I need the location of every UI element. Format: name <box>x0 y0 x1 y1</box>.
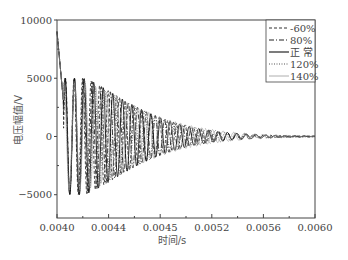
x-tick-label: 0.0060 <box>298 222 333 233</box>
legend-label: -60% <box>290 23 316 34</box>
x-tick-label: 0.0044 <box>91 222 126 233</box>
x-tick-label: 0.0056 <box>246 222 281 233</box>
legend: -60%80%正 常120%140% <box>266 20 319 82</box>
x-tick-label: 0.0040 <box>40 222 75 233</box>
chart-svg: 1000050000−5000 0.00400.00440.00450.0052… <box>0 0 348 260</box>
legend-label: 正 常 <box>290 46 313 58</box>
y-axis-label: 电压幅值/V <box>12 95 24 145</box>
y-tick-label: 5000 <box>27 73 52 84</box>
x-tick-label: 0.0045 <box>143 222 178 233</box>
legend-label: 120% <box>290 59 319 70</box>
y-tick-label: 10000 <box>20 15 52 26</box>
legend-label: 80% <box>290 35 312 46</box>
x-axis: 0.00400.00440.00450.00520.00560.0060 <box>40 214 333 233</box>
legend-label: 140% <box>290 71 319 82</box>
y-axis: 1000050000−5000 <box>18 15 59 201</box>
x-tick-label: 0.0052 <box>194 222 229 233</box>
x-axis-label: 时间/s <box>158 234 187 246</box>
y-tick-label: 0 <box>46 131 52 142</box>
y-tick-label: −5000 <box>18 189 52 200</box>
